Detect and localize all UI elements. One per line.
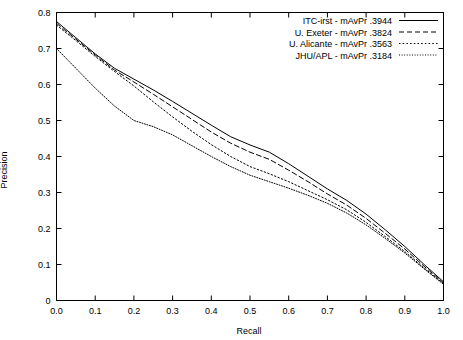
y-tick-label: 0 xyxy=(45,296,50,306)
x-tick-label: 0.7 xyxy=(321,306,334,316)
x-tick-label: 0.4 xyxy=(205,306,218,316)
x-tick-label: 0.9 xyxy=(399,306,412,316)
y-tick-label: 0.4 xyxy=(38,152,51,162)
x-tick-label: 0.1 xyxy=(89,306,102,316)
y-tick-label: 0.1 xyxy=(38,260,51,270)
y-axis-label: Precision xyxy=(0,151,9,188)
x-tick-label: 1.0 xyxy=(437,306,450,316)
y-tick-label: 0.5 xyxy=(38,116,51,126)
legend-label-2: U. Alicante - mAvPr .3563 xyxy=(289,39,392,49)
series-line-1 xyxy=(57,23,444,283)
x-tick-label: 0.2 xyxy=(128,306,141,316)
x-tick-label: 0.8 xyxy=(360,306,373,316)
x-tick-label: 0.0 xyxy=(50,306,63,316)
legend-label-3: JHU/APL - mAvPr .3184 xyxy=(295,51,392,61)
y-tick-label: 0.3 xyxy=(38,188,51,198)
x-tick-label: 0.3 xyxy=(166,306,179,316)
x-tick-label: 0.5 xyxy=(244,306,257,316)
y-tick-label: 0.2 xyxy=(38,224,51,234)
y-tick-label: 0.8 xyxy=(38,8,51,18)
series-line-2 xyxy=(57,25,444,283)
plot-canvas: 0.00.10.20.30.40.50.60.70.80.91.000.10.2… xyxy=(0,0,463,340)
x-axis-label: Recall xyxy=(236,326,261,336)
legend-label-0: ITC-irst - mAvPr .3944 xyxy=(303,16,392,26)
y-tick-label: 0.6 xyxy=(38,80,51,90)
x-tick-label: 0.6 xyxy=(282,306,295,316)
legend-label-1: U. Exeter - mAvPr .3824 xyxy=(295,28,392,38)
precision-recall-chart: Precision Recall 0.00.10.20.30.40.50.60.… xyxy=(0,0,463,340)
y-tick-label: 0.7 xyxy=(38,44,51,54)
